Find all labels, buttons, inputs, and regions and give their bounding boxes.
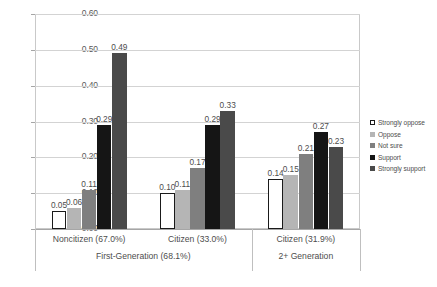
chart-canvas: 0.000.100.200.300.400.500.60 0.050.060.1…: [0, 0, 437, 287]
category-label: Citizen (31.9%): [252, 234, 360, 244]
bar-column[interactable]: 0.23: [329, 14, 344, 229]
legend-item[interactable]: Strongly support: [370, 163, 437, 175]
legend-item[interactable]: Support: [370, 152, 437, 164]
legend-swatch-icon: [370, 143, 375, 148]
group-header-label: 2+ Generation: [252, 251, 360, 261]
bar[interactable]: [314, 132, 329, 229]
bar-value-label: 0.33: [220, 101, 236, 110]
axis-group-separator: [252, 229, 253, 271]
bar-value-label: 0.21: [298, 144, 314, 153]
bar[interactable]: [97, 125, 112, 229]
legend-swatch-icon: [370, 155, 375, 160]
plot-area: 0.050.060.110.290.490.100.110.170.290.33…: [35, 14, 360, 229]
bar-value-label: 0.17: [189, 158, 205, 167]
bar[interactable]: [190, 168, 205, 229]
bar-column[interactable]: 0.29: [205, 14, 220, 229]
bar-value-label: 0.11: [81, 180, 97, 189]
bar-column[interactable]: 0.14: [268, 14, 283, 229]
bar-value-label: 0.23: [328, 137, 344, 146]
bar[interactable]: [82, 190, 97, 229]
bar-column[interactable]: 0.21: [299, 14, 314, 229]
bar[interactable]: [283, 175, 298, 229]
bar-value-label: 0.14: [268, 169, 284, 178]
bar[interactable]: [52, 211, 67, 229]
legend-label: Strongly oppose: [378, 119, 425, 126]
axis-group-separator: [360, 229, 361, 271]
category-label: Citizen (33.0%): [143, 234, 251, 244]
legend-label: Support: [378, 154, 401, 161]
bar-value-label: 0.11: [175, 180, 191, 189]
legend-label: Strongly support: [378, 165, 425, 172]
bar-column[interactable]: 0.33: [220, 14, 235, 229]
legend-item[interactable]: Not sure: [370, 140, 437, 152]
legend-swatch-icon: [370, 132, 375, 137]
legend-label: Not sure: [378, 142, 403, 149]
bar-column[interactable]: 0.29: [97, 14, 112, 229]
bar-value-label: 0.15: [283, 165, 299, 174]
group-header-label: First-Generation (68.1%): [35, 251, 252, 261]
bar-column[interactable]: 0.27: [314, 14, 329, 229]
bar-column[interactable]: 0.15: [283, 14, 298, 229]
bar-column[interactable]: 0.11: [175, 14, 190, 229]
bar-value-label: 0.05: [51, 201, 67, 210]
bar-group: 0.050.060.110.290.49: [52, 14, 127, 229]
bar-column[interactable]: 0.17: [190, 14, 205, 229]
legend-label: Oppose: [378, 131, 401, 138]
bar-value-label: 0.10: [159, 183, 175, 192]
legend-swatch-icon: [370, 120, 375, 125]
legend-swatch-icon: [370, 166, 375, 171]
category-label: Noncitizen (67.0%): [35, 234, 143, 244]
bar-value-label: 0.29: [96, 115, 112, 124]
bar[interactable]: [112, 53, 127, 229]
bar-column[interactable]: 0.10: [160, 14, 175, 229]
bar[interactable]: [67, 208, 82, 230]
axis-group-separator: [35, 229, 36, 271]
bar-value-label: 0.49: [111, 43, 127, 52]
bar[interactable]: [205, 125, 220, 229]
bar-group: 0.100.110.170.290.33: [160, 14, 235, 229]
bar-column[interactable]: 0.11: [82, 14, 97, 229]
bar-column[interactable]: 0.06: [67, 14, 82, 229]
bar-value-label: 0.27: [313, 122, 329, 131]
bar[interactable]: [268, 179, 283, 229]
legend: Strongly opposeOpposeNot sureSupportStro…: [370, 117, 437, 175]
bar[interactable]: [299, 154, 314, 229]
bar-value-label: 0.06: [66, 198, 82, 207]
bar[interactable]: [329, 147, 344, 229]
bar[interactable]: [220, 111, 235, 229]
legend-item[interactable]: Strongly oppose: [370, 117, 437, 129]
x-axis-line: [35, 229, 360, 230]
bar-value-label: 0.29: [205, 115, 221, 124]
bar-group: 0.140.150.210.270.23: [268, 14, 343, 229]
legend-item[interactable]: Oppose: [370, 129, 437, 141]
bar-column[interactable]: 0.49: [112, 14, 127, 229]
bar[interactable]: [160, 193, 175, 229]
bar-column[interactable]: 0.05: [52, 14, 67, 229]
bar[interactable]: [175, 190, 190, 229]
